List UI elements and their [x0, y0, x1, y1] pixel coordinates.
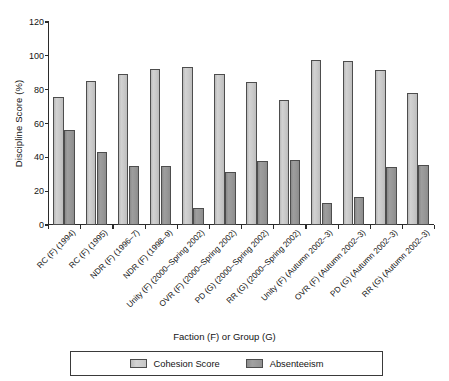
bar-cohesion-score — [86, 81, 97, 225]
y-tick-mark — [45, 21, 49, 22]
bar-absenteeism — [354, 197, 365, 225]
bars-container — [48, 22, 434, 225]
legend-item-absenteeism: Absenteeism — [246, 359, 324, 369]
y-tick-mark — [45, 123, 49, 124]
x-axis-title: Faction (F) or Group (G) — [0, 331, 449, 342]
bar-absenteeism — [161, 166, 172, 225]
bar-cohesion-score — [53, 97, 64, 225]
bar-absenteeism — [290, 160, 301, 225]
bar-cohesion-score — [407, 93, 418, 225]
y-tick-label: 120 — [22, 17, 44, 27]
y-tick-mark — [45, 157, 49, 158]
bar-cohesion-score — [311, 60, 322, 225]
x-axis-tick-labels: RC (F) (1994)RC (F) (1995)NDR (F) (1996–… — [48, 228, 434, 324]
bar-chart-figure: Discipline Score (%) 020406080100120 RC … — [0, 0, 449, 381]
plot-area: 020406080100120 — [48, 22, 434, 225]
legend-label-absenteeism: Absenteeism — [270, 359, 324, 369]
bar-cohesion-score — [150, 69, 161, 225]
legend-swatch-cohesion-icon — [130, 359, 147, 368]
y-tick-mark — [45, 191, 49, 192]
bar-cohesion-score — [246, 82, 257, 225]
y-tick-mark — [45, 89, 49, 90]
bar-absenteeism — [418, 165, 429, 225]
legend-label-cohesion: Cohesion Score — [154, 359, 220, 369]
y-tick-label: 20 — [22, 186, 44, 196]
y-tick-label: 60 — [22, 119, 44, 129]
bar-absenteeism — [129, 166, 140, 225]
bar-absenteeism — [386, 167, 397, 225]
legend-swatch-absenteeism-icon — [246, 359, 263, 368]
x-tick-label-text: RR (G) (Autumn 2002–3) — [360, 228, 431, 299]
bar-absenteeism — [193, 208, 204, 225]
y-tick-label: 0 — [22, 220, 44, 230]
legend-item-cohesion: Cohesion Score — [130, 359, 220, 369]
x-tick-label: RR (G) (Autumn 2002–3) — [360, 228, 431, 299]
bar-cohesion-score — [214, 74, 225, 225]
y-tick-label: 80 — [22, 85, 44, 95]
bar-cohesion-score — [118, 74, 129, 225]
bar-cohesion-score — [343, 61, 354, 225]
y-tick-mark — [45, 55, 49, 56]
bar-absenteeism — [97, 152, 108, 225]
bar-cohesion-score — [279, 100, 290, 225]
bar-absenteeism — [64, 130, 75, 225]
bar-absenteeism — [257, 161, 268, 225]
bar-cohesion-score — [375, 70, 386, 225]
y-tick-label: 40 — [22, 152, 44, 162]
bar-absenteeism — [225, 172, 236, 225]
bar-cohesion-score — [182, 67, 193, 225]
legend: Cohesion Score Absenteeism — [70, 351, 383, 376]
bar-absenteeism — [322, 203, 333, 225]
x-tick-mark — [434, 225, 435, 229]
y-tick-label: 100 — [22, 51, 44, 61]
